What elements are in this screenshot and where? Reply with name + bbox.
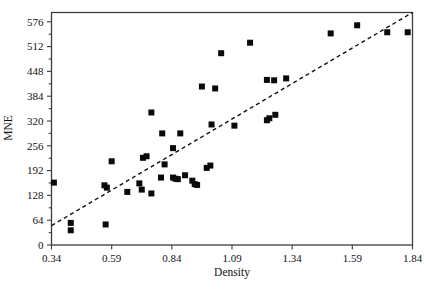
y-axis-title: MNE (2, 115, 14, 141)
x-axis: 0.340.590.841.091.341.591.84 (42, 245, 423, 264)
data-point-marker (109, 158, 115, 164)
y-tick-label: 192 (27, 164, 44, 176)
data-point-marker (271, 77, 277, 83)
data-point-marker (136, 180, 142, 186)
x-axis-title: Density (214, 266, 250, 279)
data-point-marker (218, 50, 224, 56)
y-tick-label: 0 (38, 239, 44, 251)
y-tick-label: 256 (27, 140, 44, 152)
x-tick-label: 1.59 (343, 252, 363, 264)
data-point-marker (405, 29, 411, 35)
data-point-marker (103, 221, 109, 227)
data-point-marker (51, 180, 57, 186)
data-points-group (51, 22, 411, 233)
data-point-marker (231, 123, 237, 129)
y-tick-label: 128 (27, 189, 44, 201)
data-point-marker (272, 112, 278, 118)
trend-line-group (52, 13, 413, 226)
y-axis: 064128192256320384448512576 (27, 16, 52, 251)
data-point-marker (283, 75, 289, 81)
y-tick-label: 576 (27, 16, 44, 28)
data-point-marker (177, 130, 183, 136)
data-point-marker (194, 182, 200, 188)
x-tick-label: 1.34 (283, 252, 303, 264)
x-tick-label: 0.84 (162, 252, 182, 264)
data-point-marker (148, 190, 154, 196)
data-point-marker (162, 161, 168, 167)
trend-line (52, 13, 413, 226)
data-point-marker (159, 130, 165, 136)
data-point-marker (209, 121, 215, 127)
data-point-marker (207, 163, 213, 169)
y-tick-label: 512 (27, 40, 44, 52)
data-point-marker (354, 22, 360, 28)
y-tick-label: 64 (33, 214, 45, 226)
x-tick-label: 0.34 (42, 252, 62, 264)
data-point-marker (170, 145, 176, 151)
data-point-marker (266, 115, 272, 121)
data-point-marker (247, 40, 253, 46)
data-point-marker (212, 85, 218, 91)
data-point-marker (384, 29, 390, 35)
data-point-marker (148, 109, 154, 115)
plot-canvas: 064128192256320384448512576 0.340.590.84… (0, 0, 429, 293)
data-point-marker (144, 153, 150, 159)
data-point-marker (328, 30, 334, 36)
data-point-marker (175, 176, 181, 182)
data-point-marker (264, 77, 270, 83)
data-point-marker (68, 220, 74, 226)
x-tick-label: 1.84 (403, 252, 423, 264)
y-tick-label: 448 (27, 65, 44, 77)
data-point-marker (68, 227, 74, 233)
scatter-plot-figure: 064128192256320384448512576 0.340.590.84… (0, 0, 429, 293)
data-point-marker (182, 172, 188, 178)
plot-frame (52, 13, 413, 246)
data-point-marker (124, 189, 130, 195)
y-tick-label: 320 (27, 115, 44, 127)
data-point-marker (139, 187, 145, 193)
x-tick-label: 1.09 (222, 252, 242, 264)
x-tick-label: 0.59 (102, 252, 122, 264)
data-point-marker (158, 175, 164, 181)
y-tick-label: 384 (27, 90, 44, 102)
data-point-marker (199, 84, 205, 90)
data-point-marker (104, 185, 110, 191)
